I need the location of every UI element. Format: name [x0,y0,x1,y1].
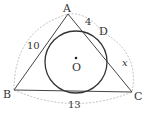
length-dc: x [122,57,128,68]
label-d: D [99,25,108,38]
center-point-o [75,57,78,60]
label-o: O [72,61,81,74]
length-ab: 10 [27,40,40,51]
label-a: A [62,2,72,15]
length-bc: 13 [68,99,81,110]
label-b: B [3,88,11,101]
length-ad: 4 [85,16,91,27]
triangle-abc [14,14,132,92]
label-c: C [134,90,142,103]
triangle-incircle-diagram: A B C D O 10 4 x 13 [0,0,150,114]
